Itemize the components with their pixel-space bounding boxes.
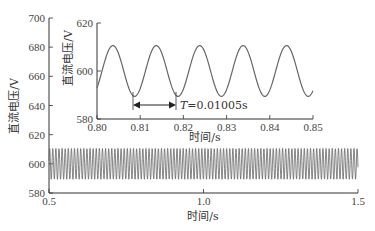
y-tick-label: 600 <box>77 65 94 77</box>
period-label: T=0.01005s <box>180 99 248 112</box>
x-tick-label: 0.81 <box>131 121 150 133</box>
x-tick-label: 0.85 <box>303 121 323 133</box>
main-x-axis-title: 时间/s <box>187 210 219 223</box>
x-tick-label: 0.80 <box>87 121 107 133</box>
y-tick-label: 640 <box>29 100 46 112</box>
y-tick-label: 600 <box>29 158 46 170</box>
inset-waveform <box>97 46 313 97</box>
chart-canvas: 5806006206406606807000.51.01.5 580600620… <box>0 0 375 231</box>
arrow-left-icon <box>133 102 140 109</box>
main-waveform <box>49 148 358 179</box>
x-tick-label: 1.0 <box>197 195 211 207</box>
y-tick-label: 620 <box>77 17 94 29</box>
inset-axes: 5806006200.800.810.820.830.840.85 <box>77 17 324 133</box>
inset-x-axis-title: 时间/s <box>189 131 221 144</box>
x-tick-label: 0.5 <box>42 195 56 207</box>
x-tick-label: 0.84 <box>260 121 280 133</box>
y-tick-label: 660 <box>29 70 46 82</box>
arrow-right-icon <box>169 102 176 109</box>
y-tick-label: 680 <box>29 41 46 53</box>
period-annotation: T=0.01005s <box>133 92 248 112</box>
y-tick-label: 620 <box>29 129 46 141</box>
inset-y-axis-title: 直流电压/V <box>61 29 75 86</box>
x-tick-label: 1.5 <box>351 195 365 207</box>
y-tick-label: 700 <box>29 12 46 24</box>
main-y-axis-title: 直流电压/V <box>7 77 21 134</box>
